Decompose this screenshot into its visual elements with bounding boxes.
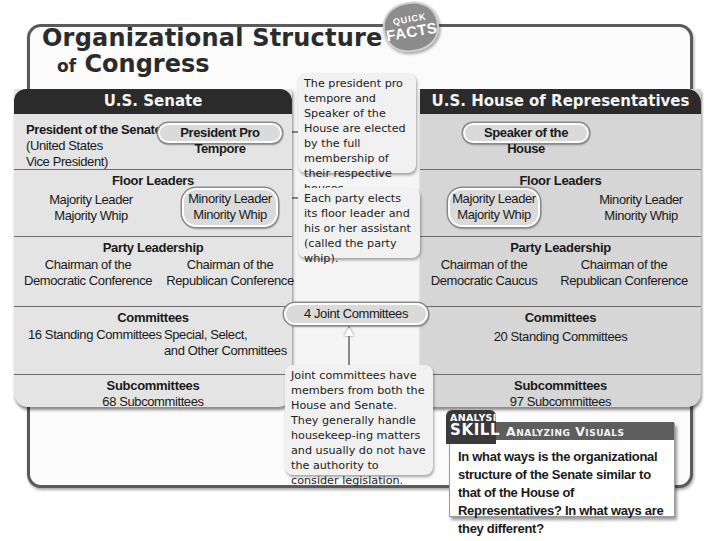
house-majority-leader: Majority Leader [450, 191, 538, 207]
vp-detail-2: Vice President) [26, 154, 166, 170]
senate-subcommittees: Subcommittees 68 Subcommittees [14, 374, 292, 408]
vp-detail-1: (United States [26, 138, 166, 154]
senate-subcommittees-title: Subcommittees [14, 378, 292, 394]
senate-minority-leader: Minority Leader [184, 191, 276, 207]
senate-rep-chair-1: Chairman of the [160, 257, 300, 273]
senate-committees: Committees 16 Standing Committees Specia… [14, 306, 292, 375]
house-leader-section: Speaker of the House [420, 114, 701, 167]
house-committees: Committees 20 Standing Committees [420, 306, 701, 375]
president-of-senate: President of the Senate [26, 122, 166, 138]
house-floor-title: Floor Leaders [420, 173, 701, 189]
house-majority-whip: Majority Whip [450, 207, 538, 223]
senate-dem-chair-1: Chairman of the [18, 257, 158, 273]
house-dem-chair-1: Chairman of the [424, 257, 544, 273]
senate-majority-leader: Majority Leader [36, 192, 146, 208]
senate-special-committees-2: and Other Committees [164, 343, 287, 359]
senate-panel: U.S. Senate President of the Senate (Uni… [14, 89, 292, 407]
house-subcommittees: Subcommittees 97 Subcommittees [420, 374, 701, 408]
house-heading: U.S. House of Representatives [420, 89, 701, 114]
house-floor-leaders: Floor Leaders Majority Leader Majority W… [420, 169, 701, 237]
title-of: of [57, 56, 76, 76]
analysis-title: Analyzing Visuals [506, 424, 624, 440]
senate-standing-committees: 16 Standing Committees [28, 327, 162, 343]
senate-heading: U.S. Senate [14, 89, 292, 114]
senate-minority-pill: Minority Leader Minority Whip [182, 188, 278, 227]
house-subcommittees-title: Subcommittees [420, 378, 701, 394]
senate-majority-whip: Majority Whip [36, 208, 146, 224]
senate-special-committees-1: Special, Select, [164, 327, 287, 343]
house-party-title: Party Leadership [420, 240, 701, 256]
house-rep-chair-1: Chairman of the [554, 257, 694, 273]
senate-minority-whip: Minority Whip [184, 207, 276, 223]
analysis-badge-bottom: SKILL [450, 423, 496, 438]
senate-committees-title: Committees [14, 310, 292, 326]
senate-floor-leaders: Floor Leaders Majority Leader Majority W… [14, 169, 292, 237]
title-congress: Congress [84, 50, 209, 78]
analysis-skill-badge: ANALYSIS SKILL [446, 410, 496, 444]
house-minority-leader: Minority Leader [586, 192, 696, 208]
senate-leader-section: President of the Senate (United States V… [14, 114, 292, 167]
title-line-1: Organizational Structure [42, 26, 383, 50]
analysis-question: In what ways is the organizational struc… [458, 448, 666, 538]
senate-party-leadership: Party Leadership Chairman of the Democra… [14, 236, 292, 307]
house-standing-committees: 20 Standing Committees [420, 329, 701, 345]
callout-floor-leaders: Each party elects its floor leader and h… [298, 188, 420, 258]
speaker-of-house-pill: Speaker of the House [463, 123, 589, 143]
house-committees-title: Committees [420, 310, 701, 326]
analysis-skill-box: ANALYSIS SKILL Analyzing Visuals In what… [449, 423, 675, 517]
senate-floor-title: Floor Leaders [14, 173, 292, 189]
page-title: Organizational Structure of Congress [42, 26, 383, 76]
house-party-leadership: Party Leadership Chairman of the Democra… [420, 236, 701, 307]
house-minority-whip: Minority Whip [586, 208, 696, 224]
callout-joint: Joint committees have members from both … [285, 365, 433, 475]
president-pro-tempore-pill: President Pro Tempore [158, 123, 282, 143]
house-subcommittees-count: 97 Subcommittees [420, 394, 701, 410]
senate-rep-chair-2: Republican Conference [160, 273, 300, 289]
callout-leaders: The president pro tempore and Speaker of… [298, 73, 416, 173]
joint-committees-pill: 4 Joint Committees [284, 303, 428, 325]
house-rep-chair-2: Republican Conference [554, 273, 694, 289]
senate-party-title: Party Leadership [14, 240, 292, 256]
senate-subcommittees-count: 68 Subcommittees [14, 394, 292, 410]
house-panel: U.S. House of Representatives Speaker of… [420, 89, 701, 407]
house-dem-chair-2: Democratic Caucus [424, 273, 544, 289]
house-majority-pill: Majority Leader Majority Whip [448, 188, 540, 227]
senate-dem-chair-2: Democratic Conference [18, 273, 158, 289]
arrow-up-icon [344, 327, 354, 336]
